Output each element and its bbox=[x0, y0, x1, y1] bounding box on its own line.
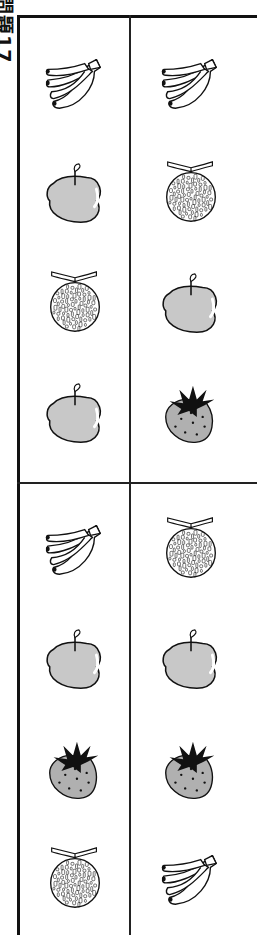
apple-icon bbox=[40, 158, 110, 228]
fruit-cell bbox=[20, 138, 129, 248]
fruit-cell bbox=[20, 714, 129, 824]
panel-2-column-left bbox=[20, 484, 129, 934]
panel-1-column-right bbox=[131, 18, 251, 482]
melon-icon bbox=[156, 514, 226, 584]
fruit-cell bbox=[20, 248, 129, 358]
fruit-cell bbox=[131, 494, 251, 604]
apple-icon bbox=[40, 624, 110, 694]
banana-icon bbox=[156, 48, 226, 118]
strawberry-icon bbox=[156, 378, 226, 448]
banana-icon bbox=[40, 48, 110, 118]
fruit-cell bbox=[20, 494, 129, 604]
banana-icon bbox=[40, 514, 110, 584]
banana-icon bbox=[156, 844, 226, 914]
fruit-cell bbox=[20, 358, 129, 468]
worksheet-frame bbox=[17, 15, 257, 935]
panel-2-column-right bbox=[131, 484, 251, 934]
panel-1-column-left bbox=[20, 18, 129, 482]
fruit-cell bbox=[131, 248, 251, 358]
panel-2 bbox=[20, 484, 254, 934]
apple-icon bbox=[40, 378, 110, 448]
fruit-cell bbox=[131, 714, 251, 824]
strawberry-icon bbox=[156, 734, 226, 804]
melon-icon bbox=[156, 158, 226, 228]
apple-icon bbox=[156, 268, 226, 338]
melon-icon bbox=[40, 268, 110, 338]
fruit-cell bbox=[20, 824, 129, 934]
fruit-cell bbox=[131, 824, 251, 934]
melon-icon bbox=[40, 844, 110, 914]
fruit-cell bbox=[131, 604, 251, 714]
panel-1 bbox=[20, 18, 254, 482]
fruit-cell bbox=[131, 28, 251, 138]
apple-icon bbox=[156, 624, 226, 694]
fruit-cell bbox=[20, 28, 129, 138]
strawberry-icon bbox=[40, 734, 110, 804]
fruit-cell bbox=[20, 604, 129, 714]
fruit-cell bbox=[131, 358, 251, 468]
fruit-cell bbox=[131, 138, 251, 248]
